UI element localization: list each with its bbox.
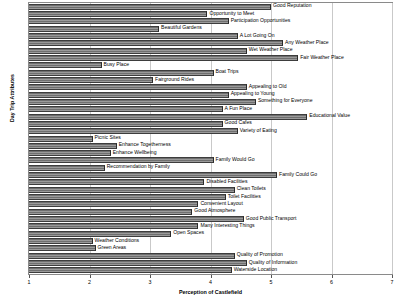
bar[interactable] [29, 84, 247, 90]
bar-label: Beautiful Gardens [161, 24, 202, 30]
bar-row: Disabled Facilities [29, 179, 392, 185]
bar[interactable] [29, 77, 153, 83]
bar-label: A Fun Place [225, 105, 252, 111]
bar-label: Something for Everyone [258, 97, 313, 103]
x-axis-tick-label: 6 [330, 279, 333, 285]
bar-row: Appealing to Young [29, 92, 392, 98]
x-axis-tick-label: 5 [270, 279, 273, 285]
bar[interactable] [29, 187, 235, 193]
bar-label: Enhance Togetherness [119, 141, 171, 147]
bar-label: A Lot Going On [240, 32, 275, 38]
bar[interactable] [29, 48, 247, 54]
bar[interactable] [29, 26, 159, 32]
bar[interactable] [29, 201, 198, 207]
bar-label: Opportunity to Meet [209, 10, 254, 16]
bar-label: Picnic Sites [95, 134, 121, 140]
bar[interactable] [29, 253, 235, 259]
bar-row: Recommendation by Family [29, 165, 392, 171]
bar-row: Enhance Wellbeing [29, 150, 392, 156]
bar-row: Fairground Rides [29, 77, 392, 83]
bar-label: Good Reputation [273, 2, 312, 8]
bar[interactable] [29, 267, 232, 273]
bar-row: Good Atmosphere [29, 209, 392, 215]
bar[interactable] [29, 106, 223, 112]
bar-label: Quality of Promotion [237, 251, 283, 257]
bar-label: Enhance Wellbeing [113, 149, 157, 155]
bar-label: Any Weather Place [285, 39, 329, 45]
bar[interactable] [29, 128, 238, 134]
bar-row: Beautiful Gardens [29, 26, 392, 32]
bar-row: Opportunity to Meet [29, 11, 392, 17]
bar-row: Quality of Information [29, 260, 392, 266]
x-axis-tick [332, 275, 333, 278]
bar[interactable] [29, 245, 96, 251]
bar-label: Fair Weather Place [300, 54, 344, 60]
bar[interactable] [29, 55, 298, 61]
bar-row: Fair Weather Place [29, 55, 392, 61]
bar-label: Good Atmosphere [194, 207, 235, 213]
x-axis-tick [150, 275, 151, 278]
x-axis-tick [29, 275, 30, 278]
bar-label: Open Spaces [173, 229, 204, 235]
bar[interactable] [29, 165, 105, 171]
bar[interactable] [29, 238, 93, 244]
x-axis-tick-label: 3 [149, 279, 152, 285]
bar-row: Good Cafes [29, 121, 392, 127]
bar-label: Quality of Information [249, 259, 297, 265]
bar-label: Good Cafes [225, 119, 252, 125]
bar[interactable] [29, 179, 204, 185]
bar[interactable] [29, 92, 229, 98]
bar-row: Appealing to Old [29, 84, 392, 90]
bar-label: Weather Conditions [95, 237, 140, 243]
bar[interactable] [29, 114, 307, 120]
bar[interactable] [29, 40, 283, 46]
x-axis-tick [90, 275, 91, 278]
bar[interactable] [29, 260, 247, 266]
bar[interactable] [29, 194, 226, 200]
bar-label: Convenient Layout [200, 200, 242, 206]
bar[interactable] [29, 99, 256, 105]
bar-label: Green Areas [98, 244, 127, 250]
x-axis-tick [271, 275, 272, 278]
bar[interactable] [29, 150, 111, 156]
bar-label: Recommendation by Family [107, 163, 170, 169]
gridline [392, 3, 393, 274]
bar-row: Green Areas [29, 245, 392, 251]
horizontal-bar-chart: Day Trip Attributes Good ReputationOppor… [0, 0, 401, 305]
bar[interactable] [29, 11, 207, 17]
bars-container: Good ReputationOpportunity to MeetPartic… [29, 3, 392, 274]
bar-row: Enhance Togetherness [29, 143, 392, 149]
bar[interactable] [29, 121, 223, 127]
x-axis-title: Perception of Castlefield [28, 289, 393, 295]
bar[interactable] [29, 33, 238, 39]
bar[interactable] [29, 62, 102, 68]
bar-row: Quality of Promotion [29, 253, 392, 259]
bar-row: Busy Place [29, 62, 392, 68]
bar-label: Many Interesting Things [200, 222, 254, 228]
bar-label: Busy Place [104, 61, 129, 67]
bar-label: Disabled Facilities [206, 178, 247, 184]
bar-label: Educational Value [309, 112, 350, 118]
bar-label: Waterside Location [234, 266, 277, 272]
plot-area: Good ReputationOpportunity to MeetPartic… [28, 2, 393, 275]
x-axis-tick-label: 4 [209, 279, 212, 285]
bar[interactable] [29, 143, 117, 149]
bar-label: Boat Trips [216, 68, 239, 74]
bar-label: Appealing to Old [249, 83, 287, 89]
x-axis: Perception of Castlefield 1234567 [28, 275, 393, 305]
bar-label: Fairground Rides [155, 76, 194, 82]
bar-label: Good Public Transport [246, 215, 297, 221]
bar-row: Picnic Sites [29, 136, 392, 142]
bar-row: Educational Value [29, 114, 392, 120]
bar[interactable] [29, 136, 93, 142]
bar-label: Wet Weather Place [249, 46, 293, 52]
bar-row: Something for Everyone [29, 99, 392, 105]
bar-label: Family Would Go [216, 156, 255, 162]
bar[interactable] [29, 209, 192, 215]
bar-label: Participation Opportunities [231, 17, 291, 23]
bar-row: Variety of Eating [29, 128, 392, 134]
bar-row: Participation Opportunities [29, 18, 392, 24]
x-axis-tick-label: 7 [391, 279, 394, 285]
bar-row: Any Weather Place [29, 40, 392, 46]
x-axis-tick [392, 275, 393, 278]
